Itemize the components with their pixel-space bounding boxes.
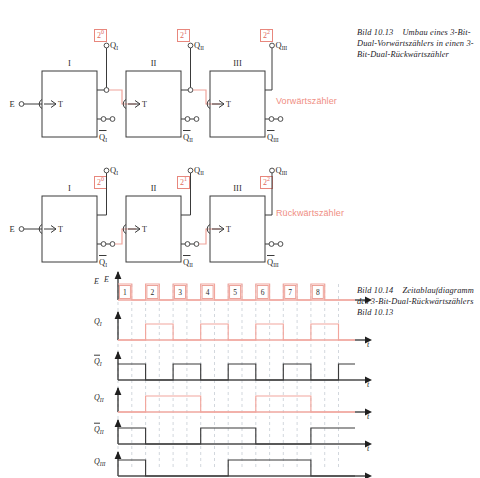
- circuit-down-counter: I E T QI QI: [9, 165, 287, 268]
- clock-dynamic-arrow: [128, 101, 140, 108]
- terminal-Qnot-open-up-I: [110, 117, 115, 122]
- waveform-Q_III: [118, 460, 355, 476]
- terminal-Qnot-up-I: [101, 117, 106, 122]
- figure-vector-layer: I E T QI QI: [0, 0, 480, 478]
- x-axis-label: t: [367, 444, 370, 453]
- label-T-down-III: T: [226, 225, 231, 234]
- pulse-number: 5: [233, 288, 237, 297]
- y-axis-arrowhead: [115, 451, 122, 459]
- x-axis-label: t: [367, 340, 370, 349]
- waveform-row-Qn_II: QIIt: [94, 419, 372, 453]
- y-axis-arrowhead: [115, 271, 122, 279]
- label-Qnot-up-II: QII: [183, 132, 193, 143]
- axis-label-E: E: [93, 277, 99, 286]
- flipflop-label-I: I: [68, 183, 71, 193]
- label-Qnot-up-I: QI: [99, 132, 107, 143]
- terminal-Qnot-up-III: [269, 117, 274, 122]
- terminal-Q-top-down-II: [188, 168, 193, 173]
- clock-dynamic-arrow: [212, 226, 224, 233]
- timing-diagram: EQItQItQIItQIItQIII12345678E: [93, 271, 372, 478]
- clock-dynamic-arrow: [128, 226, 140, 233]
- time-axis-arrowhead: [365, 473, 372, 478]
- label-E-down: E: [9, 224, 14, 234]
- y-axis-arrowhead: [115, 351, 122, 359]
- terminal-Qnot-down-I: [101, 242, 106, 247]
- y-axis-arrowhead: [115, 419, 122, 427]
- label-Qnot-up-III: QIII: [267, 132, 279, 143]
- axis-label-E: E: [103, 275, 109, 284]
- label-T-down-II: T: [142, 225, 147, 234]
- terminal-Qnot-open-down-II: [194, 242, 199, 247]
- label-T-up-II: T: [142, 100, 147, 109]
- label-Q-up-III: QIII: [276, 40, 288, 51]
- circuit-up-counter: I E T QI QI: [9, 40, 287, 143]
- flipflop-II-down: II T QII QII: [123, 165, 204, 268]
- waveform-Q_I: [118, 324, 355, 340]
- axis-label-Q_I: QI: [94, 317, 103, 327]
- q-riser: [265, 173, 272, 215]
- terminal-E-down: [19, 227, 24, 232]
- axis-label-Qn_II: QII: [94, 425, 105, 435]
- waveform-Qn_II: [118, 428, 355, 444]
- waveform-row-Q_III: QIII: [94, 451, 372, 478]
- terminal-Qnot-open-up-II: [194, 117, 199, 122]
- terminal-Q-up-II: [188, 88, 193, 93]
- terminal-Qnot-open-up-III: [278, 117, 283, 122]
- coupling-wire-up-I-II: [109, 90, 136, 104]
- flipflop-I-up: I E T QI QI: [9, 40, 118, 143]
- y-axis-arrowhead: [115, 387, 122, 395]
- pulse-number: 8: [316, 288, 320, 297]
- terminal-E-up: [19, 102, 24, 107]
- pulse-number: 1: [123, 288, 127, 297]
- terminal-Q-top-up-II: [188, 43, 193, 48]
- flipflop-label-II: II: [151, 58, 157, 68]
- waveform-row-Q_II: QIIt: [94, 387, 372, 421]
- waveform-row-Qn_I: QIt: [94, 351, 372, 389]
- label-Q-down-II: QII: [194, 165, 204, 176]
- label-Q-up-II: QII: [194, 40, 204, 51]
- label-Qnot-down-II: QII: [183, 257, 193, 268]
- axis-label-Q_III: QIII: [94, 457, 107, 467]
- label-Q-up-I: QI: [110, 40, 118, 51]
- terminal-Q-top-down-I: [104, 168, 109, 173]
- pulse-number: 2: [151, 288, 155, 297]
- pulse-number: 6: [261, 288, 265, 297]
- label-Q-down-III: QIII: [276, 165, 288, 176]
- x-axis-label: t: [367, 412, 370, 421]
- flipflop-III-down: III T QIII QIII: [207, 165, 287, 268]
- flipflop-label-II: II: [151, 183, 157, 193]
- pulse-number: 4: [206, 288, 210, 297]
- label-T-up-I: T: [58, 100, 63, 109]
- clock-dynamic-arrow: [44, 101, 56, 108]
- x-axis-label: t: [367, 380, 370, 389]
- waveform-Qn_I: [118, 364, 355, 380]
- clock-dynamic-arrow: [212, 101, 224, 108]
- q-riser: [97, 173, 107, 215]
- axis-label-Q_II: QII: [94, 393, 105, 403]
- label-E-up: E: [9, 99, 14, 109]
- axis-label-Qn_I: QI: [94, 357, 103, 367]
- terminal-Qnot-open-down-III: [278, 242, 283, 247]
- q-riser: [181, 173, 191, 215]
- coupling-wire-up-II-III: [193, 90, 220, 104]
- pulse-number: 3: [178, 288, 182, 297]
- label-T-up-III: T: [226, 100, 231, 109]
- time-axis-arrowhead: [365, 297, 372, 304]
- terminal-Q-up-I: [104, 88, 109, 93]
- flipflop-label-I: I: [68, 58, 71, 68]
- terminal-Qnot-up-II: [185, 117, 190, 122]
- figure-page: Bild 10.13Umbau eines 3-Bit-Dual-Vorwärt…: [0, 0, 480, 478]
- flipflop-label-III: III: [233, 183, 242, 193]
- waveform-row-Q_I: QIt: [94, 311, 372, 349]
- terminal-Qnot-down-III: [269, 242, 274, 247]
- clock-dynamic-arrow: [44, 226, 56, 233]
- pulse-number: 7: [288, 288, 292, 297]
- terminal-Q-top-up-III: [270, 43, 275, 48]
- flipflop-III-up: III T QIII QIII: [207, 40, 287, 143]
- waveform-Q_II: [118, 396, 355, 412]
- flipflop-II-up: II T QII QII: [123, 40, 204, 143]
- terminal-Q-top-down-III: [270, 168, 275, 173]
- label-T-down-I: T: [58, 225, 63, 234]
- terminal-Qnot-down-II: [185, 242, 190, 247]
- flipflop-I-down: I E T QI QI: [9, 165, 118, 268]
